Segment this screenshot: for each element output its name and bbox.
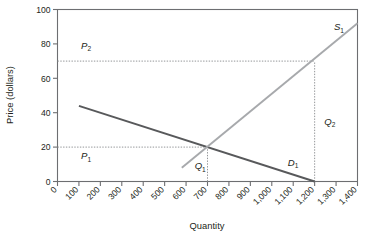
supply-demand-chart: 01002003004005006007008009001,0001,1001,… xyxy=(0,0,374,239)
x-axis-title: Quantity xyxy=(190,220,225,231)
y-tick-label: 40 xyxy=(41,108,51,118)
y-tick-label: 100 xyxy=(36,5,51,15)
y-tick-label: 80 xyxy=(41,39,51,49)
y-tick-label: 20 xyxy=(41,142,51,152)
y-tick-label: 0 xyxy=(46,177,51,187)
y-tick-label: 60 xyxy=(41,74,51,84)
chart-canvas: 01002003004005006007008009001,0001,1001,… xyxy=(0,0,374,239)
y-axis-title: Price (dollars) xyxy=(4,66,15,124)
